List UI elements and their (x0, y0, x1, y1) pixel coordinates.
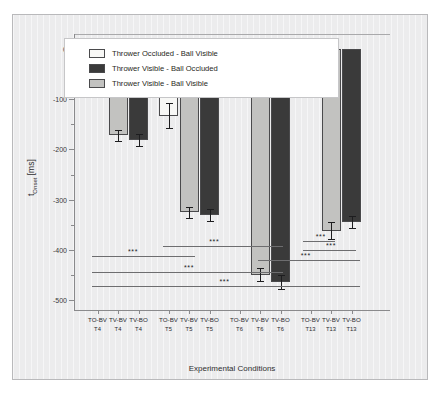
significance-marker: *** (301, 252, 311, 259)
error-bar-cap (328, 222, 335, 223)
figure-canvas: tOnset [ms] 0-100-200-300-400-500 TO-BVT… (0, 0, 442, 393)
x-tick (240, 310, 241, 314)
x-tick (98, 310, 99, 314)
x-axis-line (74, 310, 390, 311)
error-bar-cap (278, 275, 285, 276)
significance-bracket (303, 250, 356, 251)
error-bar (260, 268, 261, 281)
x-tick-time: T6 (265, 325, 297, 333)
legend-swatch-thrower-visible-ball-visible (89, 79, 105, 88)
legend-swatch-thrower-visible-ball-occluded (89, 64, 105, 73)
error-bar (118, 130, 119, 141)
bar-tv-bo-t13 (342, 49, 361, 222)
x-tick (352, 310, 353, 314)
error-bar (352, 216, 353, 228)
error-bar-cap (115, 130, 122, 131)
legend-label: Thrower Visible - Ball Occluded (112, 64, 218, 73)
x-tick-label: TV-BOT6 (265, 316, 297, 333)
x-tick-time: T5 (194, 325, 226, 333)
x-tick (311, 310, 312, 314)
error-bar-cap (115, 141, 122, 142)
y-tick-label: -300 (53, 196, 67, 203)
x-tick-label: TV-BOT13 (336, 316, 368, 333)
error-bar-cap (257, 281, 264, 282)
x-tick-condition: TV-BO (271, 316, 290, 323)
error-bar-cap (186, 218, 193, 219)
error-bar-cap (136, 146, 143, 147)
error-bar (331, 222, 332, 239)
significance-bracket (92, 256, 196, 257)
y-tick (71, 225, 74, 226)
error-bar-cap (207, 221, 214, 222)
legend-label: Thrower Visible - Ball Visible (112, 79, 208, 88)
y-axis-title-unit: [ms] (26, 159, 36, 177)
y-tick-label: -200 (53, 146, 67, 153)
error-bar-cap (207, 209, 214, 210)
error-bar (169, 103, 170, 128)
error-bar-cap (278, 289, 285, 290)
x-tick (210, 310, 211, 314)
x-tick-time: T13 (336, 325, 368, 333)
error-bar (139, 134, 140, 146)
zero-reference-line (74, 34, 390, 35)
y-tick-label: -400 (53, 246, 67, 253)
x-tick (281, 310, 282, 314)
legend-item: Thrower Occluded - Ball Visible (89, 46, 338, 61)
error-bar-cap (166, 128, 173, 129)
x-tick-condition: TV-BO (342, 316, 361, 323)
significance-bracket (92, 272, 283, 273)
error-bar-cap (186, 207, 193, 208)
error-bar (189, 207, 190, 218)
y-tick (71, 175, 74, 176)
legend-swatch-thrower-occluded-ball-visible (89, 49, 105, 58)
significance-bracket (92, 286, 360, 287)
legend-item: Thrower Visible - Ball Visible (89, 76, 338, 91)
error-bar-cap (257, 268, 264, 269)
error-bar (281, 275, 282, 289)
error-bar-cap (349, 228, 356, 229)
y-tick (69, 250, 74, 251)
significance-marker: *** (220, 278, 230, 285)
y-tick (69, 200, 74, 201)
significance-bracket (258, 260, 360, 261)
significance-marker: *** (316, 233, 326, 240)
error-bar-cap (349, 216, 356, 217)
y-tick (69, 99, 74, 100)
legend-label: Thrower Occluded - Ball Visible (112, 49, 218, 58)
error-bar-cap (166, 103, 173, 104)
y-tick (71, 124, 74, 125)
legend-item: Thrower Visible - Ball Occluded (89, 61, 338, 76)
x-tick-condition: TV-BO (200, 316, 219, 323)
significance-marker: *** (209, 238, 219, 245)
significance-marker: *** (184, 264, 194, 271)
x-tick-label: TV-BOT5 (194, 316, 226, 333)
y-tick (69, 300, 74, 301)
x-tick-condition: TV-BO (129, 316, 148, 323)
error-bar (210, 209, 211, 221)
x-tick (260, 310, 261, 314)
error-bar-cap (136, 134, 143, 135)
x-tick (118, 310, 119, 314)
x-tick (189, 310, 190, 314)
y-tick (69, 149, 74, 150)
x-tick-time: T4 (123, 325, 155, 333)
y-axis-title-sub: Onset (32, 178, 38, 194)
y-tick (71, 275, 74, 276)
significance-marker: *** (128, 248, 138, 255)
significance-bracket (163, 246, 283, 247)
x-axis-title: Experimental Conditions (74, 364, 390, 373)
y-axis-title: tOnset [ms] (26, 159, 38, 196)
x-tick (139, 310, 140, 314)
y-tick-label: -500 (53, 296, 67, 303)
significance-marker: *** (326, 242, 336, 249)
chart-legend: Thrower Occluded - Ball Visible Thrower … (64, 38, 339, 98)
x-tick (331, 310, 332, 314)
x-tick (169, 310, 170, 314)
x-tick-label: TV-BOT4 (123, 316, 155, 333)
